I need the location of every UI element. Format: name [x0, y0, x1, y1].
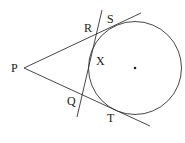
geometry-diagram: P R S X Q T [0, 0, 185, 143]
circle-center-point [134, 67, 137, 70]
label-s: S [107, 12, 114, 26]
tangent-line-pt [24, 68, 150, 126]
label-p: P [11, 61, 18, 75]
tangent-line-ps [24, 13, 141, 68]
label-t: T [107, 111, 115, 125]
label-r: R [84, 21, 92, 35]
label-x: X [96, 54, 105, 68]
label-q: Q [67, 94, 76, 108]
